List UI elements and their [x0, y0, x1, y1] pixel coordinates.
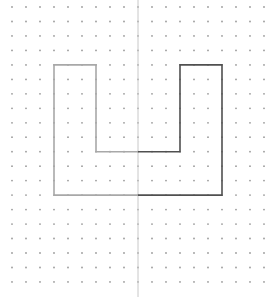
grid-dot [221, 223, 223, 225]
grid-dot [39, 122, 41, 124]
grid-dot [193, 252, 195, 254]
grid-dot [193, 151, 195, 153]
grid-dot [235, 35, 237, 37]
grid-dot [123, 122, 125, 124]
grid-dot [249, 252, 251, 254]
grid-dot [123, 107, 125, 109]
grid-dot [123, 223, 125, 225]
grid-dot [151, 107, 153, 109]
grid-dot [179, 252, 181, 254]
grid-dot [235, 238, 237, 240]
grid-dot [81, 122, 83, 124]
grid-dot [81, 267, 83, 269]
grid-dot [249, 281, 251, 283]
grid-dot [39, 165, 41, 167]
grid-dot [53, 252, 55, 254]
grid-dot [193, 21, 195, 23]
grid-dot [39, 64, 41, 66]
grid-dot [109, 107, 111, 109]
grid-dot [53, 6, 55, 8]
grid-dot [165, 136, 167, 138]
grid-dot [123, 281, 125, 283]
grid-dot [123, 93, 125, 95]
grid-dot [11, 223, 13, 225]
grid-dot [25, 136, 27, 138]
grid-dot [109, 238, 111, 240]
grid-dot [67, 209, 69, 211]
grid-dot [165, 238, 167, 240]
grid-dot [81, 165, 83, 167]
grid-dot [221, 252, 223, 254]
grid-dot [151, 136, 153, 138]
grid-dot [249, 238, 251, 240]
grid-dot [39, 6, 41, 8]
grid-dot [39, 107, 41, 109]
grid-dot [151, 6, 153, 8]
grid-dot [151, 21, 153, 23]
grid-dot [151, 79, 153, 81]
grid-dot [193, 238, 195, 240]
grid-dot [39, 180, 41, 182]
grid-dot [67, 21, 69, 23]
grid-dot [207, 35, 209, 37]
grid-dot [109, 209, 111, 211]
grid-dot [11, 64, 13, 66]
grid-dot [67, 267, 69, 269]
grid-dot [263, 238, 265, 240]
grid-dot [109, 93, 111, 95]
grid-dot [25, 50, 27, 52]
grid-dot [95, 180, 97, 182]
grid-dot [249, 209, 251, 211]
grid-dot [249, 180, 251, 182]
grid-dot [263, 194, 265, 196]
grid-dot [235, 252, 237, 254]
grid-dot [11, 122, 13, 124]
grid-dot [263, 93, 265, 95]
grid-dot [109, 281, 111, 283]
grid-dot [109, 223, 111, 225]
grid-dot [11, 107, 13, 109]
grid-dot [235, 64, 237, 66]
grid-dot [109, 6, 111, 8]
grid-dot [67, 136, 69, 138]
grid-dot [249, 151, 251, 153]
grid-dot [123, 21, 125, 23]
grid-dot [235, 122, 237, 124]
grid-dot [235, 151, 237, 153]
grid-dot [123, 238, 125, 240]
grid-dot [123, 136, 125, 138]
grid-dot [67, 79, 69, 81]
grid-dot [39, 79, 41, 81]
grid-dot [81, 107, 83, 109]
grid-dot [67, 180, 69, 182]
grid-dot [25, 194, 27, 196]
grid-dot [179, 50, 181, 52]
grid-dot [123, 35, 125, 37]
grid-dot [95, 165, 97, 167]
grid-dot [11, 35, 13, 37]
grid-dot [53, 223, 55, 225]
grid-dot [67, 151, 69, 153]
grid-dot [109, 267, 111, 269]
grid-dot [53, 238, 55, 240]
grid-dot [151, 209, 153, 211]
grid-dot [263, 180, 265, 182]
grid-dot [123, 252, 125, 254]
grid-dot [39, 50, 41, 52]
grid-dot [235, 107, 237, 109]
grid-dot [235, 6, 237, 8]
grid-dot [207, 165, 209, 167]
grid-dot [25, 64, 27, 66]
grid-dot [123, 79, 125, 81]
grid-dot [81, 252, 83, 254]
grid-dot [165, 223, 167, 225]
grid-dot [207, 107, 209, 109]
grid-dot [25, 165, 27, 167]
grid-dot [39, 35, 41, 37]
grid-dot [39, 136, 41, 138]
grid-dot [263, 50, 265, 52]
grid-dot [25, 238, 27, 240]
grid-dot [249, 6, 251, 8]
grid-dot [67, 223, 69, 225]
grid-dot [151, 122, 153, 124]
